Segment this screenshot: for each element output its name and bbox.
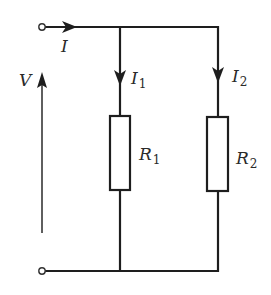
branch2-current-sub: 2 (240, 75, 248, 89)
top-terminal (39, 24, 45, 30)
resistor-r1-main: R (138, 144, 152, 164)
resistor-r1-label: R1 (138, 144, 160, 167)
branch2-current-main: I (231, 66, 239, 86)
bottom-terminal (39, 268, 45, 274)
resistor-r1 (110, 116, 130, 190)
resistor-r2 (207, 117, 228, 191)
resistor-r2-main: R (235, 148, 249, 168)
voltage-label: V (19, 70, 33, 90)
branch1-current-main: I (130, 68, 138, 88)
branch1-current-label: I1 (130, 68, 146, 91)
branch1-current-sub: 1 (139, 77, 147, 91)
resistor-r2-sub: 2 (250, 157, 258, 171)
resistor-r2-label: R2 (235, 148, 257, 171)
resistor-r1-sub: 1 (153, 153, 161, 167)
supply-current-label: I (60, 36, 68, 56)
branch2-current-label: I2 (231, 66, 247, 89)
parallel-circuit-diagram: I V I1 I2 R1 R2 (0, 0, 271, 295)
